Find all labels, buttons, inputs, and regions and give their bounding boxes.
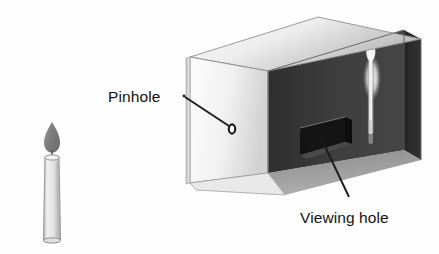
pinhole-ring[interactable] (229, 124, 235, 133)
pinhole-aperture[interactable] (229, 124, 235, 133)
viewing-hole-inner-depth (345, 117, 352, 144)
candle (44, 122, 61, 243)
pinhole-leader-dot (183, 95, 186, 98)
candle-shading (57, 162, 58, 236)
candle-base (44, 238, 61, 243)
candle-flame (44, 122, 60, 153)
box-interior-right-wall (404, 30, 421, 160)
inverted-candle-reflection (369, 120, 374, 144)
pinhole-label: Pinhole (108, 88, 160, 105)
box-front-left-face (190, 57, 268, 183)
viewing-hole-label: Viewing hole (300, 209, 389, 226)
pinhole-camera-figure: Pinhole Viewing hole (0, 0, 439, 254)
diagram-canvas: Pinhole Viewing hole (0, 0, 439, 254)
box-front-face-thickness (186, 57, 190, 184)
pinhole-camera-box (186, 17, 421, 195)
candle-top-rim (45, 155, 59, 160)
